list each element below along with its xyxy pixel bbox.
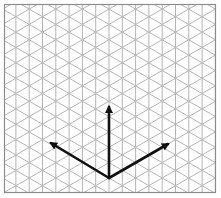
- grid-line-diagonal: [0, 0, 221, 93]
- isometric-diagram: [0, 0, 221, 198]
- grid-line-diagonal: [0, 109, 221, 198]
- grid-line-diagonal: [0, 170, 221, 198]
- grid-line-diagonal: [0, 0, 221, 186]
- grid-line-diagonal: [0, 0, 221, 186]
- grid-line-diagonal: [0, 17, 221, 198]
- grid-line-diagonal: [0, 0, 221, 124]
- grid-line-diagonal: [0, 17, 221, 198]
- grid-line-diagonal: [0, 0, 221, 1]
- grid-line-diagonal: [0, 0, 221, 198]
- grid-line-diagonal: [0, 0, 221, 1]
- grid-line-diagonal: [0, 0, 221, 124]
- grid-line-diagonal: [0, 0, 221, 93]
- grid-line-diagonal: [0, 109, 221, 198]
- isometric-grid: [0, 0, 221, 198]
- grid-line-diagonal: [0, 170, 221, 198]
- axes-group: [51, 107, 168, 178]
